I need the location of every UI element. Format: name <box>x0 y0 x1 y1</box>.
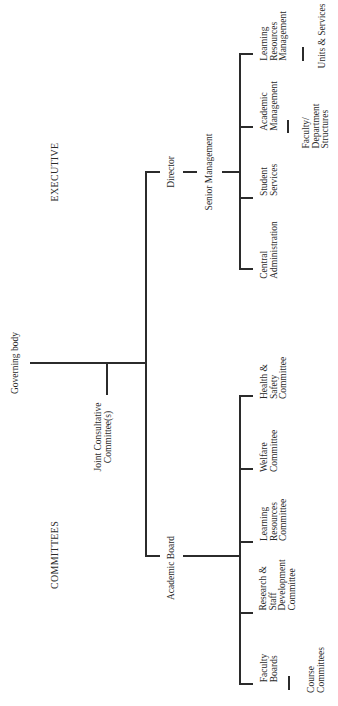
tick-health-safety <box>239 395 253 397</box>
senior-management-label: Senior Management <box>205 134 215 211</box>
faculty-department-structures-label: Faculty/ Department Structures <box>302 104 331 149</box>
joint-consultative-label: Joint Consultative Committee(s) <box>94 403 113 472</box>
connector-academic-sub <box>287 120 289 133</box>
connector-senior-out <box>222 171 240 173</box>
tick-welfare <box>239 468 253 470</box>
committees-heading-text: COMMITTEES <box>50 521 60 589</box>
faculty-boards-label: Faculty Boards <box>260 654 279 683</box>
connector-director-in <box>145 171 160 173</box>
tick-learning-resources-management <box>239 53 253 55</box>
connector-main-spine <box>145 171 147 557</box>
course-committees-label: Course Committees <box>307 647 326 693</box>
tick-central-administration <box>239 268 253 270</box>
health-safety-committee-label: Health & Safety Committee <box>260 357 289 399</box>
connector-director-senior <box>183 171 197 173</box>
director-label: Director <box>167 156 177 188</box>
research-staff-development-label: Research & Staff Development Committee <box>259 559 297 610</box>
governing-body-label: Governing body <box>11 332 21 394</box>
connector-academic-board-out <box>183 555 240 557</box>
executive-heading-text: EXECUTIVE <box>50 143 60 202</box>
learning-resources-management-label: Learning Resources Management <box>260 11 289 61</box>
student-services-label: Student Services <box>260 164 279 196</box>
connector-academic-board-in <box>145 555 160 557</box>
connector-faculty-sub <box>288 676 290 690</box>
tick-student-services <box>239 197 253 199</box>
academic-management-label: Academic Management <box>260 81 279 131</box>
welfare-committee-label: Welfare Committee <box>260 430 279 472</box>
connector-joint-consultative <box>106 362 108 395</box>
connector-executive-bracket <box>239 53 241 270</box>
connector-governing-body <box>30 362 147 364</box>
tick-academic-management <box>239 126 253 128</box>
central-administration-label: Central Administration <box>260 221 279 279</box>
connector-committees-bracket <box>239 395 241 685</box>
tick-learning-resources-committee <box>239 541 253 543</box>
tick-research-staff <box>239 612 253 614</box>
units-services-label: Units & Services <box>318 4 328 69</box>
academic-board-label: Academic Board <box>167 536 177 600</box>
tick-faculty-boards <box>239 683 253 685</box>
connector-lrm-sub <box>302 47 304 61</box>
learning-resources-committee-label: Learning Resources Committee <box>260 499 289 541</box>
